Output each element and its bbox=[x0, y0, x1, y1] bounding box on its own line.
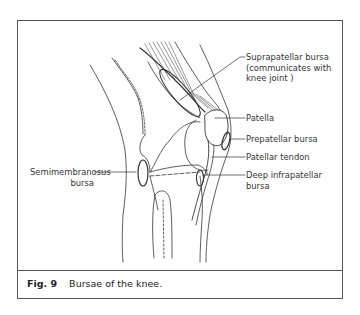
label-suprapatellar-line2: (communicates with bbox=[246, 63, 331, 74]
label-semimembranosus-line1: Semimembranosus bbox=[30, 167, 94, 178]
label-deep-infrapatellar-line2: bursa bbox=[246, 181, 322, 192]
label-suprapatellar-line1: Suprapatellar bursa bbox=[246, 52, 331, 63]
label-prepatellar-bursa: Prepatellar bursa bbox=[246, 134, 318, 145]
label-suprapatellar-line3: knee joint ) bbox=[246, 73, 331, 84]
label-suprapatellar-bursa: Suprapatellar bursa (communicates with k… bbox=[246, 52, 331, 84]
figure-title: Bursae of the knee. bbox=[69, 278, 162, 289]
label-semimembranosus-bursa: Semimembranosus bursa bbox=[30, 167, 94, 188]
label-deep-infrapatellar-line1: Deep infrapatellar bbox=[246, 170, 322, 181]
label-patellar-tendon: Patellar tendon bbox=[246, 152, 310, 163]
figure-caption: Fig. 9 Bursae of the knee. bbox=[27, 278, 162, 289]
label-semimembranosus-line2: bursa bbox=[30, 178, 94, 189]
label-deep-infrapatellar-bursa: Deep infrapatellar bursa bbox=[246, 170, 322, 191]
label-patella: Patella bbox=[246, 113, 274, 124]
figure-number: Fig. 9 bbox=[27, 278, 57, 289]
